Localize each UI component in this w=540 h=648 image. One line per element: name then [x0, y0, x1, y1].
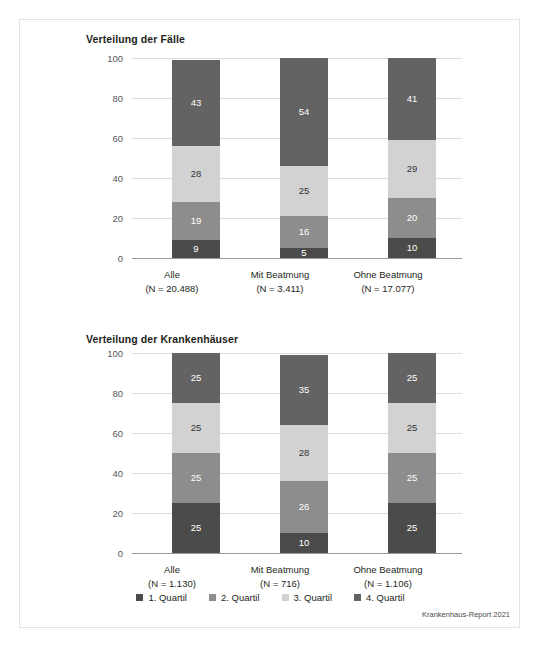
legend-item: 2. Quartil [209, 592, 260, 603]
legend-swatch-icon [354, 594, 361, 601]
bar-segment: 10 [280, 533, 328, 553]
bar-segment-value: 25 [299, 186, 310, 196]
legend-swatch-icon [136, 594, 143, 601]
bar-segment: 20 [388, 198, 436, 238]
figure-frame: Verteilung der Fälle 0204060801009192843… [19, 19, 520, 628]
bar-segment-value: 25 [191, 373, 202, 383]
category-label: Ohne Beatmung (N = 1.106) [318, 563, 458, 591]
y-axis-tick-label: 40 [112, 468, 123, 479]
bar-segment-value: 25 [191, 473, 202, 483]
bar-segment-value: 10 [407, 243, 418, 253]
y-axis-tick-label: 20 [112, 213, 123, 224]
y-axis-tick-label: 100 [107, 53, 123, 64]
category-name: Mit Beatmung [251, 564, 310, 575]
bar-segment-value: 25 [407, 523, 418, 533]
plot-area: 020406080100252525251026283525252525 [132, 353, 462, 553]
gridline [132, 553, 462, 554]
bar-segment-value: 5 [301, 248, 306, 258]
bar-segment: 54 [280, 58, 328, 166]
bar-segment: 10 [388, 238, 436, 258]
bar-segment-value: 16 [299, 227, 310, 237]
bar-segment: 29 [388, 140, 436, 198]
bar-segment-value: 9 [193, 244, 198, 254]
legend-label: 3. Quartil [294, 592, 333, 603]
y-axis-tick-label: 80 [112, 388, 123, 399]
bar-segment: 25 [172, 503, 220, 553]
chart-verteilung-der-krankenhaeuser: Verteilung der Krankenhäuser 02040608010… [20, 320, 521, 585]
gridline [132, 258, 462, 259]
bar-segment-value: 41 [407, 94, 418, 104]
bar-segment-value: 25 [191, 423, 202, 433]
bar-segment: 25 [172, 353, 220, 403]
y-axis-tick-label: 80 [112, 93, 123, 104]
bar-segment: 25 [388, 503, 436, 553]
bar-segment: 41 [388, 58, 436, 140]
bar-segment-value: 43 [191, 98, 202, 108]
category-name: Mit Beatmung [251, 269, 310, 280]
category-name: Alle [164, 564, 180, 575]
bar-segment: 43 [172, 60, 220, 146]
stacked-bar: 10262835 [280, 353, 328, 553]
bar-segment: 5 [280, 248, 328, 258]
bar-segment-value: 25 [407, 373, 418, 383]
category-name: Alle [164, 269, 180, 280]
category-name: Ohne Beatmung [353, 269, 422, 280]
bar-segment-value: 25 [407, 473, 418, 483]
y-axis-tick-label: 100 [107, 348, 123, 359]
bar-segment-value: 10 [299, 538, 310, 548]
chart-verteilung-der-faelle: Verteilung der Fälle 0204060801009192843… [20, 20, 521, 320]
bar-segment-value: 25 [407, 423, 418, 433]
bar-segment: 25 [388, 453, 436, 503]
category-name: Ohne Beatmung [353, 564, 422, 575]
category-count: (N = 17.077) [318, 282, 458, 296]
legend-item: 3. Quartil [282, 592, 333, 603]
y-axis-tick-label: 0 [118, 548, 123, 559]
legend-label: 2. Quartil [221, 592, 260, 603]
stacked-bar: 9192843 [172, 58, 220, 258]
plot-area: 0204060801009192843516255410202941 [132, 58, 462, 258]
stacked-bar: 25252525 [388, 353, 436, 553]
legend-swatch-icon [282, 594, 289, 601]
bar-segment: 25 [280, 166, 328, 216]
y-axis-tick-label: 60 [112, 428, 123, 439]
legend-label: 1. Quartil [148, 592, 187, 603]
bar-segment: 35 [280, 355, 328, 425]
bar-segment-value: 19 [191, 216, 202, 226]
bar-segment: 25 [172, 403, 220, 453]
bar-segment-value: 26 [299, 502, 310, 512]
bar-segment-value: 29 [407, 164, 418, 174]
bar-segment-value: 28 [299, 448, 310, 458]
bar-segment: 9 [172, 240, 220, 258]
source-footnote: Krankenhaus-Report 2021 [422, 610, 510, 619]
chart-title: Verteilung der Fälle [86, 33, 185, 45]
y-axis-tick-label: 40 [112, 173, 123, 184]
y-axis-tick-label: 20 [112, 508, 123, 519]
bar-segment-value: 20 [407, 213, 418, 223]
bar-segment: 26 [280, 481, 328, 533]
legend-label: 4. Quartil [366, 592, 405, 603]
bar-segment-value: 25 [191, 523, 202, 533]
chart-legend: 1. Quartil 2. Quartil 3. Quartil 4. Quar… [20, 592, 521, 603]
stacked-bar: 10202941 [388, 58, 436, 258]
bar-segment: 28 [280, 425, 328, 481]
y-axis-tick-label: 0 [118, 253, 123, 264]
legend-swatch-icon [209, 594, 216, 601]
category-count: (N = 1.106) [318, 577, 458, 591]
bar-segment: 25 [172, 453, 220, 503]
bar-segment-value: 28 [191, 169, 202, 179]
bar-segment: 16 [280, 216, 328, 248]
bar-segment: 25 [388, 353, 436, 403]
bar-segment: 28 [172, 146, 220, 202]
category-label: Ohne Beatmung (N = 17.077) [318, 268, 458, 296]
stacked-bar: 25252525 [172, 353, 220, 553]
bar-segment-value: 35 [299, 385, 310, 395]
chart-title: Verteilung der Krankenhäuser [86, 333, 238, 345]
y-axis-tick-label: 60 [112, 133, 123, 144]
legend-item: 1. Quartil [136, 592, 187, 603]
bar-segment: 25 [388, 403, 436, 453]
bar-segment: 19 [172, 202, 220, 240]
bar-segment-value: 54 [299, 107, 310, 117]
stacked-bar: 5162554 [280, 58, 328, 258]
legend-item: 4. Quartil [354, 592, 405, 603]
